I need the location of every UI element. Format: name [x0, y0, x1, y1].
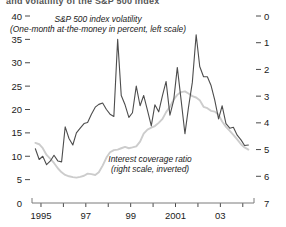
right-axis-tick-label: 1	[264, 37, 269, 48]
left-axis-tick-label: 35	[11, 34, 22, 45]
right-axis-tick-label: 2	[264, 64, 269, 75]
left-axis-tick-label: 30	[11, 57, 22, 68]
x-axis-ticks: 19959799200103	[30, 203, 242, 221]
right-axis-ticks: 01234567	[256, 11, 269, 209]
cropped-title-strip: and volatility of the S&P 500 index	[0, 0, 286, 7]
right-axis-tick-label: 6	[264, 171, 269, 182]
chart-container: and volatility of the S&P 500 index 0510…	[0, 0, 286, 227]
left-axis-tick-label: 5	[17, 174, 22, 185]
left-axis-tick-label: 15	[11, 127, 22, 138]
right-axis-tick-label: 4	[264, 117, 269, 128]
left-axis-tick-label: 40	[11, 11, 22, 22]
left-axis-tick-label: 0	[17, 198, 22, 209]
volatility-annotation: S&P 500 index volatility (One-month at-t…	[10, 14, 186, 34]
coverage-annotation: Interest coverage ratio (right scale, in…	[108, 154, 192, 174]
coverage-annotation-line2: (right scale, inverted)	[111, 164, 189, 174]
coverage-annotation-line1: Interest coverage ratio	[108, 154, 192, 164]
left-axis-tick-label: 25	[11, 81, 22, 92]
x-axis-tick-label: 1995	[30, 210, 51, 221]
chart-plot: 0510152025303540 01234567 19959799200103…	[0, 0, 286, 227]
x-axis-tick-label: 97	[81, 210, 92, 221]
x-axis-tick-label: 03	[215, 210, 226, 221]
left-axis-tick-label: 20	[11, 104, 22, 115]
right-axis-tick-label: 7	[264, 198, 269, 209]
left-axis-tick-label: 10	[11, 151, 22, 162]
volatility-annotation-line2: (One-month at-the-money in percent, left…	[10, 24, 186, 34]
right-axis-tick-label: 5	[264, 144, 269, 155]
x-axis-tick-label: 99	[125, 210, 136, 221]
cropped-title-text: and volatility of the S&P 500 index	[0, 0, 286, 6]
right-axis-tick-label: 0	[264, 11, 269, 22]
left-axis-ticks: 0510152025303540	[11, 11, 30, 209]
series-line-sp500-volatility	[35, 35, 248, 165]
x-axis-tick-label: 2001	[165, 210, 186, 221]
right-axis-tick-label: 3	[264, 91, 269, 102]
volatility-annotation-line1: S&P 500 index volatility	[54, 14, 142, 24]
